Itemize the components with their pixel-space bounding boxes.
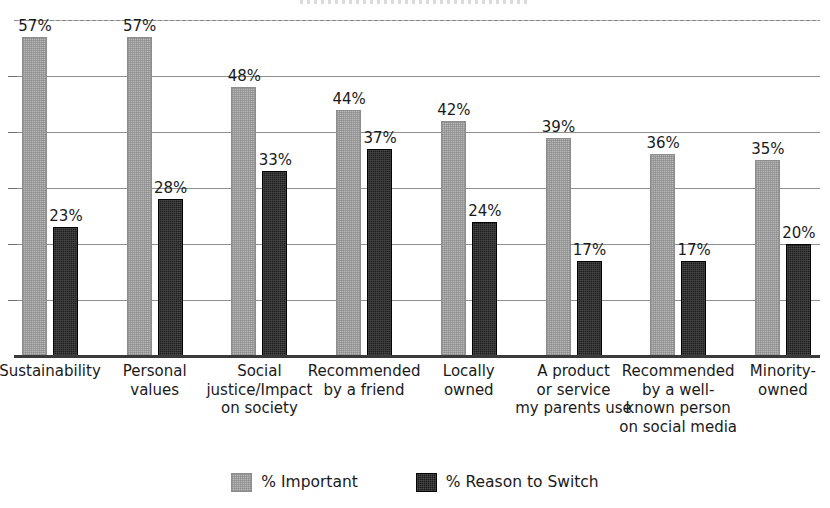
bar-switch[interactable]	[262, 171, 287, 356]
legend-swatch-switch	[416, 473, 437, 492]
bar-important[interactable]	[336, 110, 361, 356]
category-label-line: my parents use	[515, 399, 633, 418]
bar-important[interactable]	[755, 160, 780, 356]
bar-group: 39%17%	[546, 20, 602, 356]
bar-value-label: 28%	[141, 180, 201, 196]
category-label-line: Sustainability	[0, 362, 109, 381]
x-axis-category-labels: SustainabilityPersonalvaluesSocialjustic…	[0, 362, 830, 457]
bar-switch[interactable]	[158, 199, 183, 356]
bar-value-label: 44%	[319, 91, 379, 107]
bar-value-label: 37%	[350, 130, 410, 146]
bar-value-label: 36%	[633, 135, 693, 151]
category-label: A productor servicemy parents use	[515, 362, 633, 418]
category-label: Locallyowned	[410, 362, 528, 399]
category-label-line: on social media	[619, 418, 737, 437]
legend-swatch-important	[231, 473, 252, 492]
bar-switch[interactable]	[53, 227, 78, 356]
y-axis-tick-30	[8, 188, 17, 189]
category-label-line: Personal	[96, 362, 214, 381]
bar-value-label: 57%	[110, 18, 170, 34]
category-label-line: or service	[515, 381, 633, 400]
y-axis-tick-10	[8, 300, 17, 301]
bar-important[interactable]	[22, 37, 47, 356]
category-label-line: justice/Impact	[200, 381, 318, 400]
bar-group: 42%24%	[441, 20, 497, 356]
bar-switch[interactable]	[472, 222, 497, 356]
cropped-title-remnant	[300, 0, 530, 4]
x-axis-baseline	[14, 355, 820, 358]
plot-area: 57%23%57%28%48%33%44%37%42%24%39%17%36%1…	[14, 20, 820, 356]
category-label-line: Minority-	[724, 362, 830, 381]
bar-chart: 57%23%57%28%48%33%44%37%42%24%39%17%36%1…	[0, 0, 830, 508]
bar-switch[interactable]	[577, 261, 602, 356]
category-label-line: Social	[200, 362, 318, 381]
bar-value-label: 17%	[560, 242, 620, 258]
category-label: Recommendedby a friend	[305, 362, 423, 399]
category-label-line: values	[96, 381, 214, 400]
category-label-line: Locally	[410, 362, 528, 381]
bar-important[interactable]	[231, 87, 256, 356]
bar-group: 44%37%	[336, 20, 392, 356]
bar-value-label: 57%	[5, 18, 65, 34]
category-label: Sustainability	[0, 362, 109, 381]
category-label-line: on society	[200, 399, 318, 418]
bar-value-label: 17%	[664, 242, 724, 258]
bar-group: 57%28%	[127, 20, 183, 356]
bar-group: 36%17%	[650, 20, 706, 356]
bar-group: 48%33%	[231, 20, 287, 356]
bar-important[interactable]	[127, 37, 152, 356]
bar-value-label: 24%	[455, 203, 515, 219]
bar-value-label: 35%	[738, 141, 798, 157]
bar-value-label: 20%	[769, 225, 829, 241]
legend-item[interactable]: % Important	[231, 473, 358, 492]
category-label-line: by a well-	[619, 381, 737, 400]
category-label-line: known person	[619, 399, 737, 418]
bar-value-label: 48%	[214, 68, 274, 84]
legend-item[interactable]: % Reason to Switch	[416, 473, 599, 492]
bar-switch[interactable]	[786, 244, 811, 356]
y-axis-tick-20	[8, 244, 17, 245]
bar-value-label: 42%	[424, 102, 484, 118]
bar-value-label: 39%	[529, 119, 589, 135]
bar-group: 35%20%	[755, 20, 811, 356]
chart-legend: % Important% Reason to Switch	[0, 466, 830, 498]
category-label: Minority-owned	[724, 362, 830, 399]
category-label-line: A product	[515, 362, 633, 381]
bar-important[interactable]	[441, 121, 466, 356]
bar-group: 57%23%	[22, 20, 78, 356]
category-label: Personalvalues	[96, 362, 214, 399]
y-axis-tick-40	[8, 132, 17, 133]
legend-label: % Important	[261, 473, 358, 491]
bar-value-label: 23%	[36, 208, 96, 224]
category-label-line: Recommended	[305, 362, 423, 381]
bar-switch[interactable]	[681, 261, 706, 356]
category-label-line: by a friend	[305, 381, 423, 400]
y-axis-tick-50	[8, 76, 17, 77]
category-label-line: Recommended	[619, 362, 737, 381]
bar-switch[interactable]	[367, 149, 392, 356]
bar-value-label: 33%	[245, 152, 305, 168]
legend-label: % Reason to Switch	[446, 473, 599, 491]
category-label: Socialjustice/Impacton society	[200, 362, 318, 418]
category-label-line: owned	[724, 381, 830, 400]
category-label: Recommendedby a well-known personon soci…	[619, 362, 737, 436]
category-label-line: owned	[410, 381, 528, 400]
